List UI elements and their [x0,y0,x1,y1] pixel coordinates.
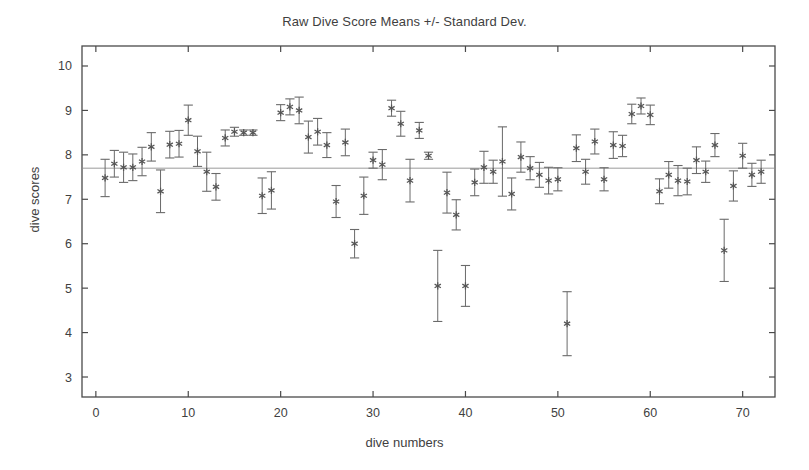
errorbar-point [470,169,479,196]
y-axis-label: dive scores [27,130,42,270]
errorbar-point [479,151,488,183]
errorbar-point [322,133,331,158]
svg-text:9: 9 [65,104,72,118]
errorbar-point [350,229,359,257]
errorbar-point [248,129,257,136]
errorbar-point [609,132,618,159]
errorbar-point [498,127,507,196]
errorbar-point [221,130,230,146]
errorbar-point [683,168,692,195]
svg-text:4: 4 [65,326,72,340]
errorbar-point [174,130,183,157]
figure-canvas: Raw Dive Score Means +/- Standard Dev. 3… [0,0,809,470]
errorbar-point [184,105,193,135]
errorbar-point [692,147,701,174]
errorbar-point [442,172,451,213]
errorbar-point [655,179,664,204]
errorbar-point [415,122,424,138]
svg-text:30: 30 [366,406,380,420]
errorbar-point [720,219,729,281]
errorbar-point [572,135,581,162]
errorbar-point [636,98,645,114]
errorbar-point [729,171,738,201]
errorbar-point [211,174,220,201]
svg-text:0: 0 [92,406,99,420]
errorbar-point [313,118,322,145]
errorbar-point [757,160,766,183]
errorbar-point [544,167,553,194]
errorbar-point [110,150,119,177]
svg-text:70: 70 [736,406,750,420]
svg-text:5: 5 [65,282,72,296]
svg-text:60: 60 [643,406,657,420]
errorbar-point [137,147,146,175]
errorbar-point [461,265,470,306]
errorbar-point [128,154,137,181]
errorbar-point [563,292,572,356]
svg-text:10: 10 [181,406,195,420]
errorbar-point [165,131,174,158]
errorbar-point [230,127,239,136]
errorbar-point [396,111,405,136]
errorbar-point [193,136,202,166]
errorbar-point [332,186,341,218]
errorbar-point [202,152,211,191]
svg-text:3: 3 [65,371,72,385]
errorbar-point [119,152,128,182]
errorbar-point [599,168,608,191]
errorbar-point [664,162,673,189]
errorbar-point [258,178,267,214]
errorbar-chart: 345678910010203040506070 [0,0,809,470]
errorbar-point [535,162,544,187]
errorbar-point [156,170,165,213]
errorbar-point [590,129,599,154]
errorbar-point [368,152,377,168]
errorbar-point [553,168,562,191]
x-axis-label: dive numbers [0,435,809,450]
errorbar-point [387,100,396,116]
errorbar-point [747,163,756,186]
errorbar-point [738,143,747,168]
errorbar-point [359,177,368,214]
errorbar-point [581,159,590,184]
errorbar-point [627,104,636,124]
tick-labels: 345678910010203040506070 [58,59,750,420]
errorbar-point [489,160,498,183]
plot-axes [82,46,775,397]
errorbar-point [618,135,627,156]
svg-text:6: 6 [65,237,72,251]
svg-text:40: 40 [459,406,473,420]
errorbar-point [701,161,710,182]
svg-text:10: 10 [58,59,72,73]
errorbar-point [673,166,682,196]
errorbar-point [507,178,516,210]
svg-text:7: 7 [65,193,72,207]
svg-text:50: 50 [551,406,565,420]
errorbar-point [285,99,294,115]
errorbar-point [341,129,350,156]
errorbar-point [147,133,156,161]
errorbar-point [516,142,525,172]
data-series-errorbars [101,97,766,356]
errorbar-point [276,105,285,121]
errorbar-point [405,159,414,202]
svg-text:8: 8 [65,148,72,162]
errorbar-point [710,134,719,157]
errorbar-point [646,105,655,125]
errorbar-point [101,159,110,196]
errorbar-point [378,150,387,180]
errorbar-point [424,152,433,159]
errorbar-point [452,200,461,230]
svg-text:20: 20 [274,406,288,420]
errorbar-point [295,97,304,124]
errorbar-point [267,172,276,209]
errorbar-point [239,129,248,136]
errorbar-point [433,250,442,321]
errorbar-point [304,121,313,153]
